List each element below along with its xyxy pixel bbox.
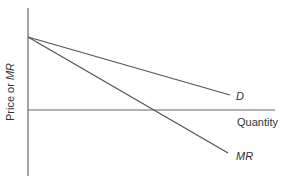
- demand-line: [28, 37, 230, 95]
- y-axis-label-prefix: Price or: [4, 80, 16, 121]
- y-axis-label: Price or MR: [4, 63, 16, 121]
- y-axis-label-mr: MR: [4, 63, 16, 80]
- marginal-revenue-line: [28, 37, 228, 153]
- marginal-revenue-label: MR: [236, 150, 253, 162]
- demand-label: D: [236, 90, 244, 102]
- chart: D Quantity MR Price or MR: [0, 0, 288, 184]
- quantity-label: Quantity: [237, 116, 278, 128]
